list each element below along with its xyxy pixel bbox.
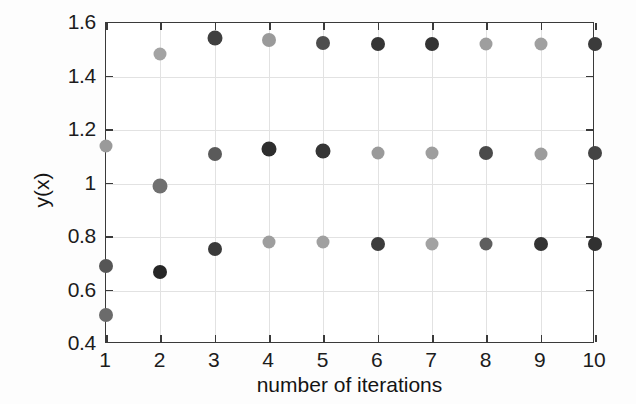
gridline-vertical: [378, 23, 379, 342]
x-axis-tick: [160, 335, 162, 342]
gridline-horizontal: [106, 237, 593, 238]
x-axis-title: number of iterations: [105, 373, 594, 397]
data-point: [479, 146, 493, 160]
data-point: [316, 144, 331, 159]
x-axis-tick-label: 4: [262, 348, 273, 372]
data-point: [425, 37, 439, 51]
data-point: [316, 36, 330, 50]
y-axis-tick-label: 0.8: [68, 224, 96, 248]
x-axis-tick: [323, 335, 325, 342]
gridline-vertical: [215, 23, 216, 342]
gridline-horizontal: [106, 130, 593, 131]
y-axis-tick-label: 1.4: [68, 64, 96, 88]
x-axis-tick: [378, 335, 380, 342]
y-axis-tick: [106, 183, 113, 185]
y-axis-tick-label: 1.2: [68, 117, 96, 141]
data-point: [154, 47, 167, 60]
x-axis-tick-label: 2: [154, 348, 165, 372]
plot-area: [105, 22, 594, 343]
data-point: [207, 30, 222, 45]
x-axis-tick: [541, 335, 543, 342]
data-point: [208, 242, 222, 256]
x-axis-tick: [432, 23, 434, 30]
data-point: [208, 147, 222, 161]
x-axis-tick: [595, 335, 597, 342]
y-axis-tick-label: 0.6: [68, 278, 96, 302]
data-point: [534, 38, 547, 51]
scatter-plot-figure: 0.40.60.811.21.41.6 y(x) number of itera…: [0, 0, 636, 404]
y-axis-tick: [106, 129, 113, 131]
x-axis-tick-label: 5: [317, 348, 328, 372]
x-axis-tick: [595, 23, 597, 30]
x-axis-tick: [269, 335, 271, 342]
y-axis-tick: [106, 76, 113, 78]
gridline-horizontal: [106, 77, 593, 78]
gridline-vertical: [432, 23, 433, 342]
data-point: [99, 308, 113, 322]
gridline-vertical: [323, 23, 324, 342]
x-axis-tick-label: 8: [480, 348, 491, 372]
data-point: [426, 237, 439, 250]
data-point: [153, 265, 167, 279]
data-point: [371, 37, 385, 51]
x-axis-tick: [215, 335, 217, 342]
data-point: [317, 236, 330, 249]
data-point: [371, 146, 384, 159]
x-axis-tick: [106, 335, 108, 342]
x-axis-tick: [486, 335, 488, 342]
data-point: [263, 236, 276, 249]
data-point: [588, 37, 602, 51]
x-axis-tick: [432, 335, 434, 342]
y-axis-tick: [106, 236, 113, 238]
data-point: [153, 179, 168, 194]
x-axis-tick-label: 6: [371, 348, 382, 372]
gridline-vertical: [269, 23, 270, 342]
data-point: [480, 38, 493, 51]
x-axis-tick-label: 1: [99, 348, 110, 372]
x-axis-tick: [378, 23, 380, 30]
y-axis-tick-label: 0.4: [68, 331, 96, 355]
data-point: [588, 237, 602, 251]
gridline-horizontal: [106, 184, 593, 185]
gridline-vertical: [486, 23, 487, 342]
y-axis-title: y(x): [2, 170, 82, 210]
y-axis-tick: [586, 290, 593, 292]
y-axis-tick: [586, 76, 593, 78]
gridline-horizontal: [106, 291, 593, 292]
x-axis-tick: [541, 23, 543, 30]
y-axis-tick: [586, 129, 593, 131]
data-point: [262, 33, 276, 47]
x-axis-tick: [215, 23, 217, 30]
gridline-vertical: [541, 23, 542, 342]
y-axis-tick: [586, 183, 593, 185]
data-point: [534, 237, 548, 251]
x-axis-tick-label: 10: [583, 348, 606, 372]
data-point: [262, 141, 277, 156]
x-axis-tick: [486, 23, 488, 30]
data-point: [426, 146, 439, 159]
data-point: [100, 140, 113, 153]
data-point: [534, 148, 547, 161]
x-axis-tick-label: 3: [208, 348, 219, 372]
y-axis-tick-label: 1.6: [68, 10, 96, 34]
y-axis-tick: [106, 290, 113, 292]
data-point: [371, 237, 385, 251]
data-point: [99, 259, 113, 273]
x-axis-tick: [106, 23, 108, 30]
data-point: [480, 237, 493, 250]
data-point: [588, 146, 602, 160]
x-axis-tick-label: 7: [425, 348, 436, 372]
x-axis-tick-label: 9: [534, 348, 545, 372]
x-axis-tick: [323, 23, 325, 30]
x-axis-tick: [160, 23, 162, 30]
x-axis-tick: [269, 23, 271, 30]
y-axis-tick-label: 1: [85, 171, 96, 195]
